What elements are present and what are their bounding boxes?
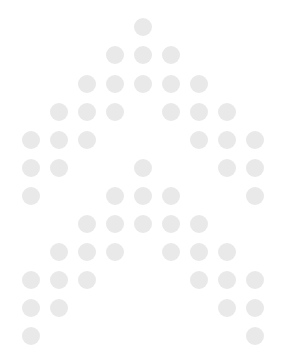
glyph-dot [218,243,236,261]
glyph-dot [190,271,208,289]
glyph-dot [50,103,68,121]
glyph-dot [246,299,264,317]
glyph-dot [162,215,180,233]
glyph-dot [50,243,68,261]
glyph-dot [50,299,68,317]
glyph-dot [22,271,40,289]
glyph-dot [134,215,152,233]
glyph-dot [78,271,96,289]
glyph-dot [106,215,124,233]
glyph-dot [106,243,124,261]
glyph-dot [162,46,180,64]
glyph-dot [22,159,40,177]
glyph-dot [22,187,40,205]
glyph-dot [134,18,152,36]
glyph-dot [78,75,96,93]
glyph-dot [78,215,96,233]
glyph-dot [162,103,180,121]
glyph-dot [134,46,152,64]
glyph-dot [22,299,40,317]
glyph-dot [106,187,124,205]
glyph-dot [190,215,208,233]
glyph-dot [106,75,124,93]
glyph-dot [218,103,236,121]
glyph-dot [162,243,180,261]
glyph-dot [50,131,68,149]
glyph-dot [134,159,152,177]
glyph-dot [246,187,264,205]
glyph-dot [22,327,40,345]
glyph-dot [22,131,40,149]
glyph-dot [190,131,208,149]
glyph-dot [78,243,96,261]
dot-glyph-layer [0,0,288,354]
glyph-dot [218,271,236,289]
glyph-dot [190,75,208,93]
glyph-dot [190,103,208,121]
glyph-dot [106,103,124,121]
glyph-dot [218,131,236,149]
glyph-dot [246,327,264,345]
glyph-dot [190,243,208,261]
glyph-dot [78,103,96,121]
glyph-dot [218,299,236,317]
glyph-dot [50,159,68,177]
glyph-dot [50,271,68,289]
glyph-dot [246,131,264,149]
glyph-dot [162,187,180,205]
glyph-dot [78,131,96,149]
glyph-dot [246,159,264,177]
dot-matrix-canvas [0,0,288,354]
glyph-dot [246,271,264,289]
glyph-dot [134,187,152,205]
glyph-dot [218,159,236,177]
glyph-dot [162,75,180,93]
glyph-dot [106,46,124,64]
glyph-dot [134,75,152,93]
